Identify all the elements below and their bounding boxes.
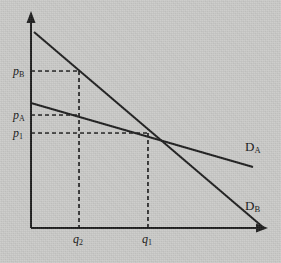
price-label-pB: pB	[13, 65, 24, 79]
price-label-p1: p1	[13, 127, 23, 141]
price-label-pA: pA	[13, 109, 25, 123]
curve-label-DB-sub: B	[254, 204, 260, 214]
quantity-label-q2-sub: 2	[79, 238, 83, 247]
demand-curve-figure: pB pA p1 q2 q1 DA DB	[0, 0, 281, 263]
quantity-label-q2: q2	[73, 233, 83, 247]
price-label-pA-sub: A	[19, 114, 25, 123]
curve-label-DB: DB	[245, 199, 260, 214]
price-label-p1-sub: 1	[19, 132, 23, 141]
price-label-pB-sub: B	[19, 70, 24, 79]
curve-label-DA-var: D	[245, 139, 254, 154]
quantity-label-q1: q1	[142, 233, 152, 247]
guide-lines	[31, 71, 148, 228]
demand-curve-a	[31, 103, 253, 167]
quantity-axis	[31, 224, 268, 233]
curve-label-DA: DA	[245, 140, 261, 155]
price-axis	[27, 11, 36, 228]
price-axis-arrow-icon	[27, 11, 36, 23]
curve-label-DA-sub: A	[254, 145, 260, 155]
curve-label-DB-var: D	[245, 198, 254, 213]
quantity-axis-arrow-icon	[256, 224, 268, 233]
quantity-label-q1-sub: 1	[148, 238, 152, 247]
demand-curve-b	[34, 32, 264, 228]
plot-area	[0, 0, 281, 263]
